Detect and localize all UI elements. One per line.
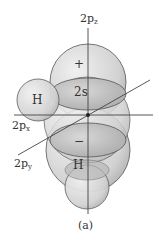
y-axis-label: 2py <box>14 157 32 171</box>
bottom-overlap-ellipse <box>65 160 109 180</box>
x-axis-label: 2px <box>12 119 30 133</box>
hydrogen-left-label: H <box>32 93 42 107</box>
hydrogen-bottom-label: H <box>73 158 83 172</box>
origin-dot <box>86 113 90 117</box>
plus-sign: + <box>74 57 84 71</box>
orbital-diagram: 2pz 2px 2py + − 2s H H (a) <box>0 0 161 244</box>
minus-sign: − <box>74 134 84 148</box>
z-axis-label: 2pz <box>80 12 98 26</box>
figure-caption: (a) <box>78 219 93 232</box>
s-orbital-label: 2s <box>74 85 88 99</box>
